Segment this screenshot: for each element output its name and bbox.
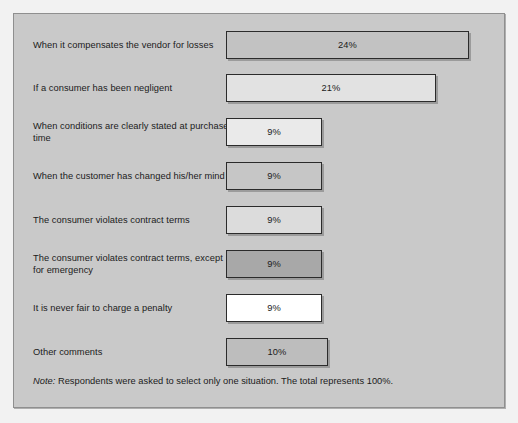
bar-category-label: It is never fair to charge a penalty <box>33 302 229 314</box>
bar: 9% <box>226 162 322 190</box>
bar-value-label: 21% <box>322 83 341 93</box>
bar-row: When it compensates the vendor for losse… <box>14 31 504 59</box>
bar-category-label: The consumer violates contract terms, ex… <box>33 252 229 276</box>
note-text: Respondents were asked to select only on… <box>55 376 393 386</box>
bar-value-label: 9% <box>267 171 281 181</box>
bar-value-label: 9% <box>267 259 281 269</box>
bar-category-label: When it compensates the vendor for losse… <box>33 39 229 51</box>
bar-row: When conditions are clearly stated at pu… <box>14 118 504 146</box>
bar-value-label: 24% <box>338 40 357 50</box>
bar-row: If a consumer has been negligent21% <box>14 74 504 102</box>
bar-category-label: The consumer violates contract terms <box>33 214 229 226</box>
chart-note: Note: Respondents were asked to select o… <box>33 376 490 386</box>
bar-row: The consumer violates contract terms, ex… <box>14 250 504 278</box>
bar-category-label: Other comments <box>33 346 229 358</box>
bar: 10% <box>226 338 328 366</box>
chart-panel: When it compensates the vendor for losse… <box>13 13 505 408</box>
bar: 9% <box>226 250 322 278</box>
bar: 9% <box>226 294 322 322</box>
bar-category-label: When conditions are clearly stated at pu… <box>33 120 229 144</box>
bar-category-label: If a consumer has been negligent <box>33 82 229 94</box>
bar-value-label: 9% <box>267 303 281 313</box>
bar-row: The consumer violates contract terms9% <box>14 206 504 234</box>
bar-row: Other comments10% <box>14 338 504 366</box>
bar: 9% <box>226 118 322 146</box>
bar: 21% <box>226 74 436 102</box>
bar: 9% <box>226 206 322 234</box>
bar: 24% <box>226 31 469 59</box>
bar-value-label: 10% <box>268 347 287 357</box>
bar-row: When the customer has changed his/her mi… <box>14 162 504 190</box>
bar-value-label: 9% <box>267 215 281 225</box>
bar-category-label: When the customer has changed his/her mi… <box>33 170 229 182</box>
note-lead: Note: <box>33 376 55 386</box>
bar-row: It is never fair to charge a penalty9% <box>14 294 504 322</box>
bar-value-label: 9% <box>267 127 281 137</box>
bar-rows: When it compensates the vendor for losse… <box>14 14 504 407</box>
